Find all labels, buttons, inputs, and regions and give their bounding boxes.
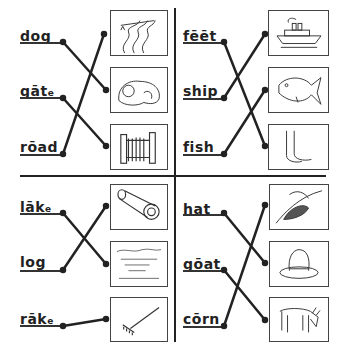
road-icon (110, 10, 168, 56)
log-icon (110, 184, 168, 230)
gate-icon (110, 124, 168, 170)
rake-icon (110, 297, 168, 342)
fish-icon (268, 67, 329, 113)
feet-icon (268, 124, 329, 170)
corn-icon (269, 184, 329, 230)
lake-icon (110, 241, 168, 287)
dog-icon (110, 67, 168, 113)
hat-icon (269, 241, 329, 287)
goat-icon (269, 297, 329, 342)
ship-icon (268, 10, 329, 56)
